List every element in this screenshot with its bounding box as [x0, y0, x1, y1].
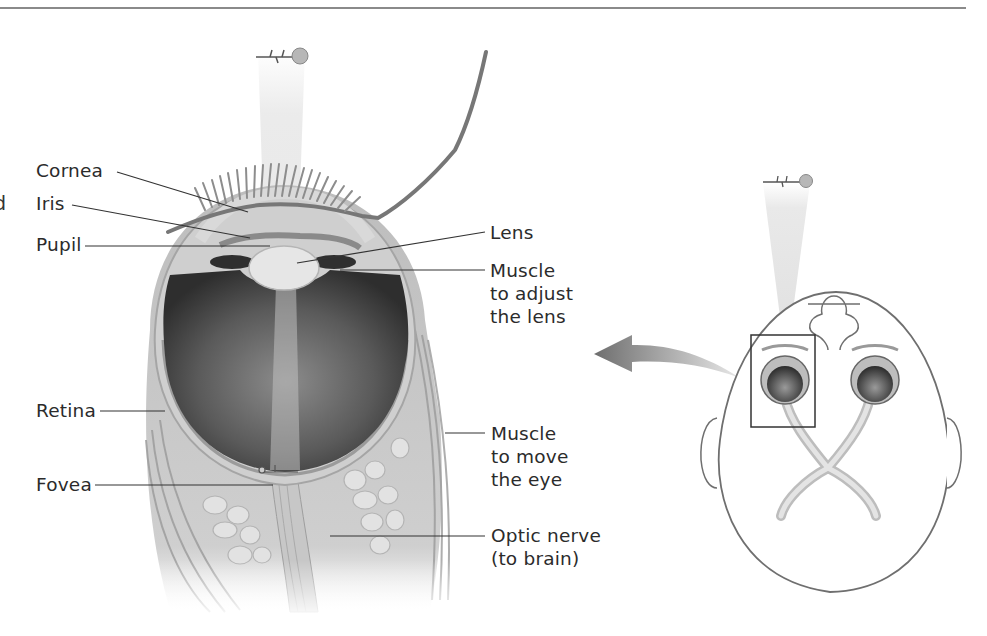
- label-pupil: Pupil: [36, 233, 82, 256]
- eye-cross-section: [130, 50, 486, 620]
- label-fovea: Fovea: [36, 473, 92, 496]
- label-eye-muscle: Muscle to move the eye: [491, 422, 569, 491]
- left-ear: [701, 418, 717, 488]
- head-top-view: [701, 175, 961, 593]
- ciliary-body-left: [210, 255, 254, 269]
- curved-arrow-left-icon: [594, 335, 740, 378]
- label-lens: Lens: [490, 221, 534, 244]
- label-ciliary-muscle: Muscle to adjust the lens: [490, 259, 573, 328]
- right-ear: [947, 418, 961, 488]
- label-cornea: Cornea: [36, 159, 103, 182]
- lens: [249, 246, 319, 290]
- label-retina: Retina: [36, 399, 96, 422]
- label-iris: Iris: [36, 192, 65, 215]
- head-outline: [719, 292, 949, 592]
- label-optic-nerve: Optic nerve (to brain): [491, 524, 601, 570]
